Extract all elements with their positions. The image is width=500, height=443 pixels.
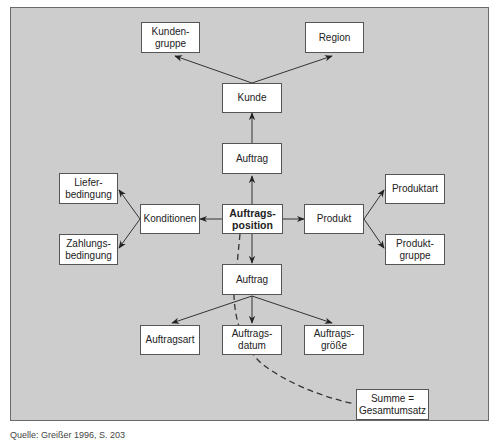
node-produkt: Produkt (304, 204, 364, 234)
node-summe-gesamtumsatz: Summe = Gesamtumsatz (356, 389, 429, 420)
node-region: Region (305, 22, 364, 53)
node-auftragsdatum: Auftrags- datum (222, 325, 282, 355)
node-kunde: Kunde (222, 83, 282, 113)
node-auftragsart: Auftragsart (140, 325, 200, 355)
node-kundengruppe: Kunden- gruppe (141, 22, 200, 53)
node-lieferbedingung: Liefer- bedingung (59, 173, 118, 204)
node-zahlungsbedingung: Zahlungs- bedingung (59, 234, 118, 265)
node-konditionen: Konditionen (140, 204, 200, 234)
node-auftrag-top: Auftrag (222, 143, 282, 174)
source-caption: Quelle: Greißer 1996, S. 203 (10, 430, 125, 440)
node-auftrag-bottom: Auftrag (222, 264, 282, 295)
node-produktgruppe: Produkt- gruppe (385, 234, 445, 265)
node-auftragsposition: Auftrags- position (222, 204, 283, 234)
node-produktart: Produktart (385, 174, 445, 204)
node-auftragsgroesse: Auftrags- größe (304, 325, 364, 355)
